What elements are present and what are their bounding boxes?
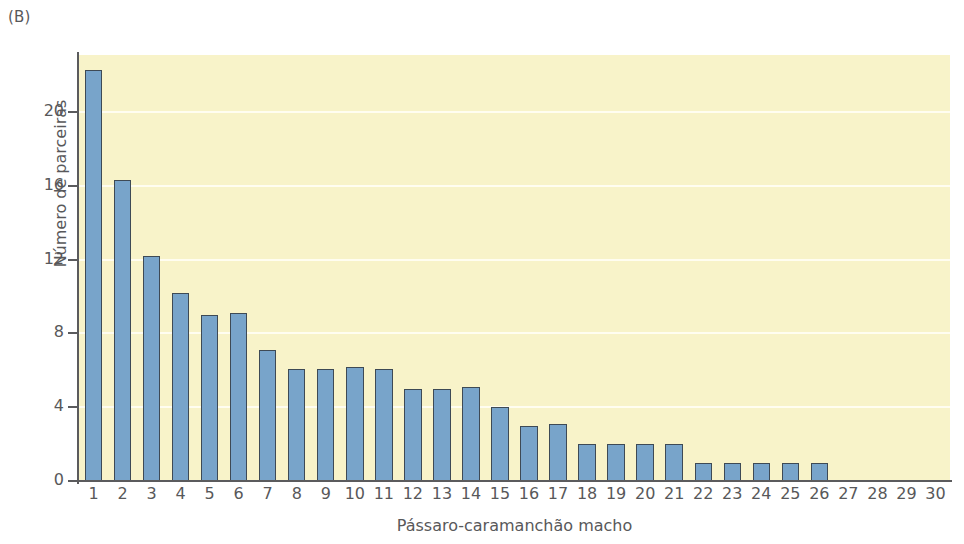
bar [578, 444, 595, 481]
x-axis-tick-label: 21 [659, 486, 689, 502]
x-axis-tick-label: 23 [717, 486, 747, 502]
x-axis-tick-label: 27 [833, 486, 863, 502]
x-axis-tick-label: 15 [485, 486, 515, 502]
x-axis-tick-label: 9 [311, 486, 341, 502]
x-axis-tick-labels: 1234567891011121314151617181920212223242… [79, 486, 950, 512]
x-axis-tick-label: 16 [514, 486, 544, 502]
x-axis-tick-label: 3 [137, 486, 167, 502]
x-axis-tick-label: 6 [224, 486, 254, 502]
bar [665, 444, 682, 481]
x-axis-tick-label: 30 [920, 486, 950, 502]
y-axis-tick-label: 4 [4, 398, 64, 414]
x-axis-tick-label: 4 [166, 486, 196, 502]
x-axis-tick-label: 12 [398, 486, 428, 502]
x-axis-tick-label: 25 [775, 486, 805, 502]
x-axis-tick-label: 1 [79, 486, 109, 502]
bar [259, 350, 276, 481]
bar [317, 369, 334, 481]
bar [607, 444, 624, 481]
bar [724, 463, 741, 481]
bar [695, 463, 712, 481]
bar [346, 367, 363, 481]
bar [85, 70, 102, 481]
x-axis-tick-label: 5 [195, 486, 225, 502]
gridline [79, 111, 950, 113]
gridline [79, 185, 950, 187]
y-axis-tick-mark [68, 406, 79, 408]
bar [404, 389, 421, 481]
x-axis-tick-label: 8 [282, 486, 312, 502]
x-axis-tick-label: 24 [746, 486, 776, 502]
bar [288, 369, 305, 481]
y-axis-tick-label: 16 [4, 177, 64, 193]
y-axis-tick-mark [68, 259, 79, 261]
x-axis-tick-label: 17 [543, 486, 573, 502]
x-axis-tick-label: 26 [804, 486, 834, 502]
y-axis-tick-label: 20 [4, 103, 64, 119]
bar [636, 444, 653, 481]
bar [114, 180, 131, 481]
bar [433, 389, 450, 481]
x-axis-tick-label: 22 [688, 486, 718, 502]
bar [491, 407, 508, 481]
y-axis-tick-label: 0 [4, 472, 64, 488]
bar [520, 426, 537, 481]
bar [172, 293, 189, 481]
y-axis-line [77, 52, 79, 484]
x-axis-tick-label: 29 [891, 486, 921, 502]
y-axis-tick-mark [68, 480, 79, 482]
x-axis-tick-label: 19 [601, 486, 631, 502]
x-axis-tick-label: 28 [862, 486, 892, 502]
x-axis-tick-label: 7 [253, 486, 283, 502]
bar [549, 424, 566, 481]
bar [143, 256, 160, 481]
x-axis-tick-label: 2 [108, 486, 138, 502]
figure-panel-b: (B) Número de parceiras 048121620 123456… [0, 0, 964, 544]
x-axis-title: Pássaro-caramanchão macho [79, 516, 950, 535]
plot-area [79, 55, 950, 481]
x-axis-tick-label: 10 [340, 486, 370, 502]
y-axis-tick-mark [68, 185, 79, 187]
y-axis-tick-label: 12 [4, 251, 64, 267]
bar [753, 463, 770, 481]
bar [462, 387, 479, 481]
y-axis-tick-mark [68, 332, 79, 334]
y-axis-tick-labels: 048121620 [0, 0, 64, 544]
gridline [79, 259, 950, 261]
x-axis-tick-label: 18 [572, 486, 602, 502]
bar [375, 369, 392, 481]
x-axis-tick-label: 20 [630, 486, 660, 502]
y-axis-tick-label: 8 [4, 324, 64, 340]
bar [811, 463, 828, 481]
bar [230, 313, 247, 481]
y-axis-tick-mark [68, 111, 79, 113]
x-axis-tick-label: 13 [427, 486, 457, 502]
bar [782, 463, 799, 481]
x-axis-tick-label: 11 [369, 486, 399, 502]
x-axis-tick-label: 14 [456, 486, 486, 502]
bar [201, 315, 218, 481]
x-axis-line [77, 480, 952, 482]
